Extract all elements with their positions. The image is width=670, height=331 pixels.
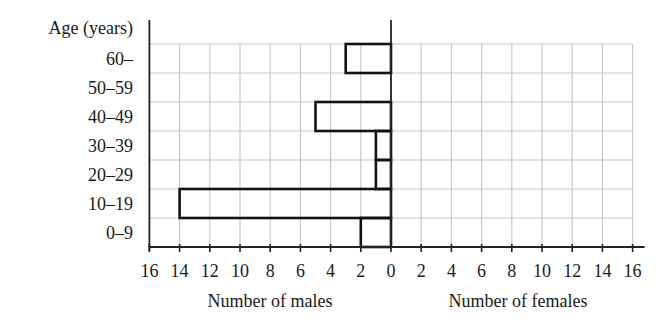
bar-male-2 xyxy=(316,102,392,131)
age-group-label: 30–39 xyxy=(88,136,133,156)
age-group-label: 0–9 xyxy=(106,223,133,243)
bar-male-6 xyxy=(361,218,391,247)
bar-male-3 xyxy=(376,131,391,160)
age-group-labels: 60–50–5940–4930–3920–2910–190–9 xyxy=(88,49,134,243)
x-tick-label-females: 12 xyxy=(563,261,581,281)
bar-male-4 xyxy=(376,160,391,189)
x-tick-label-females: 16 xyxy=(624,261,642,281)
x-tick-label-females: 2 xyxy=(417,261,426,281)
x-tick-label-males: 0 xyxy=(387,261,396,281)
x-tick-label-females: 6 xyxy=(477,261,486,281)
x-tick-label-females: 4 xyxy=(447,261,456,281)
x-axis-label-males: Number of males xyxy=(208,291,333,311)
age-group-label: 40–49 xyxy=(88,107,133,127)
x-tick-labels: 1614121086420246810121416 xyxy=(140,261,641,281)
age-group-label: 50–59 xyxy=(88,78,133,98)
x-tick-label-males: 16 xyxy=(140,261,158,281)
x-tick-label-males: 10 xyxy=(231,261,249,281)
age-group-label: 20–29 xyxy=(88,165,133,185)
bar-male-5 xyxy=(180,189,391,218)
x-tick-label-males: 6 xyxy=(296,261,305,281)
age-group-label: 10–19 xyxy=(88,194,133,214)
x-tick-label-males: 12 xyxy=(201,261,219,281)
x-tick-label-males: 14 xyxy=(171,261,189,281)
male-bars xyxy=(180,44,391,247)
age-group-label: 60– xyxy=(106,49,134,69)
y-axis-title: Age (years) xyxy=(49,18,133,39)
x-tick-label-females: 8 xyxy=(507,261,516,281)
population-pyramid-chart: 60–50–5940–4930–3920–2910–190–9 16141210… xyxy=(0,0,670,331)
x-tick-label-females: 14 xyxy=(593,261,611,281)
x-tick-label-males: 8 xyxy=(266,261,275,281)
x-tick-label-females: 10 xyxy=(533,261,551,281)
x-axis-label-females: Number of females xyxy=(449,291,588,311)
x-tick-label-males: 2 xyxy=(356,261,365,281)
bar-male-0 xyxy=(346,44,391,73)
x-tick-label-males: 4 xyxy=(326,261,335,281)
